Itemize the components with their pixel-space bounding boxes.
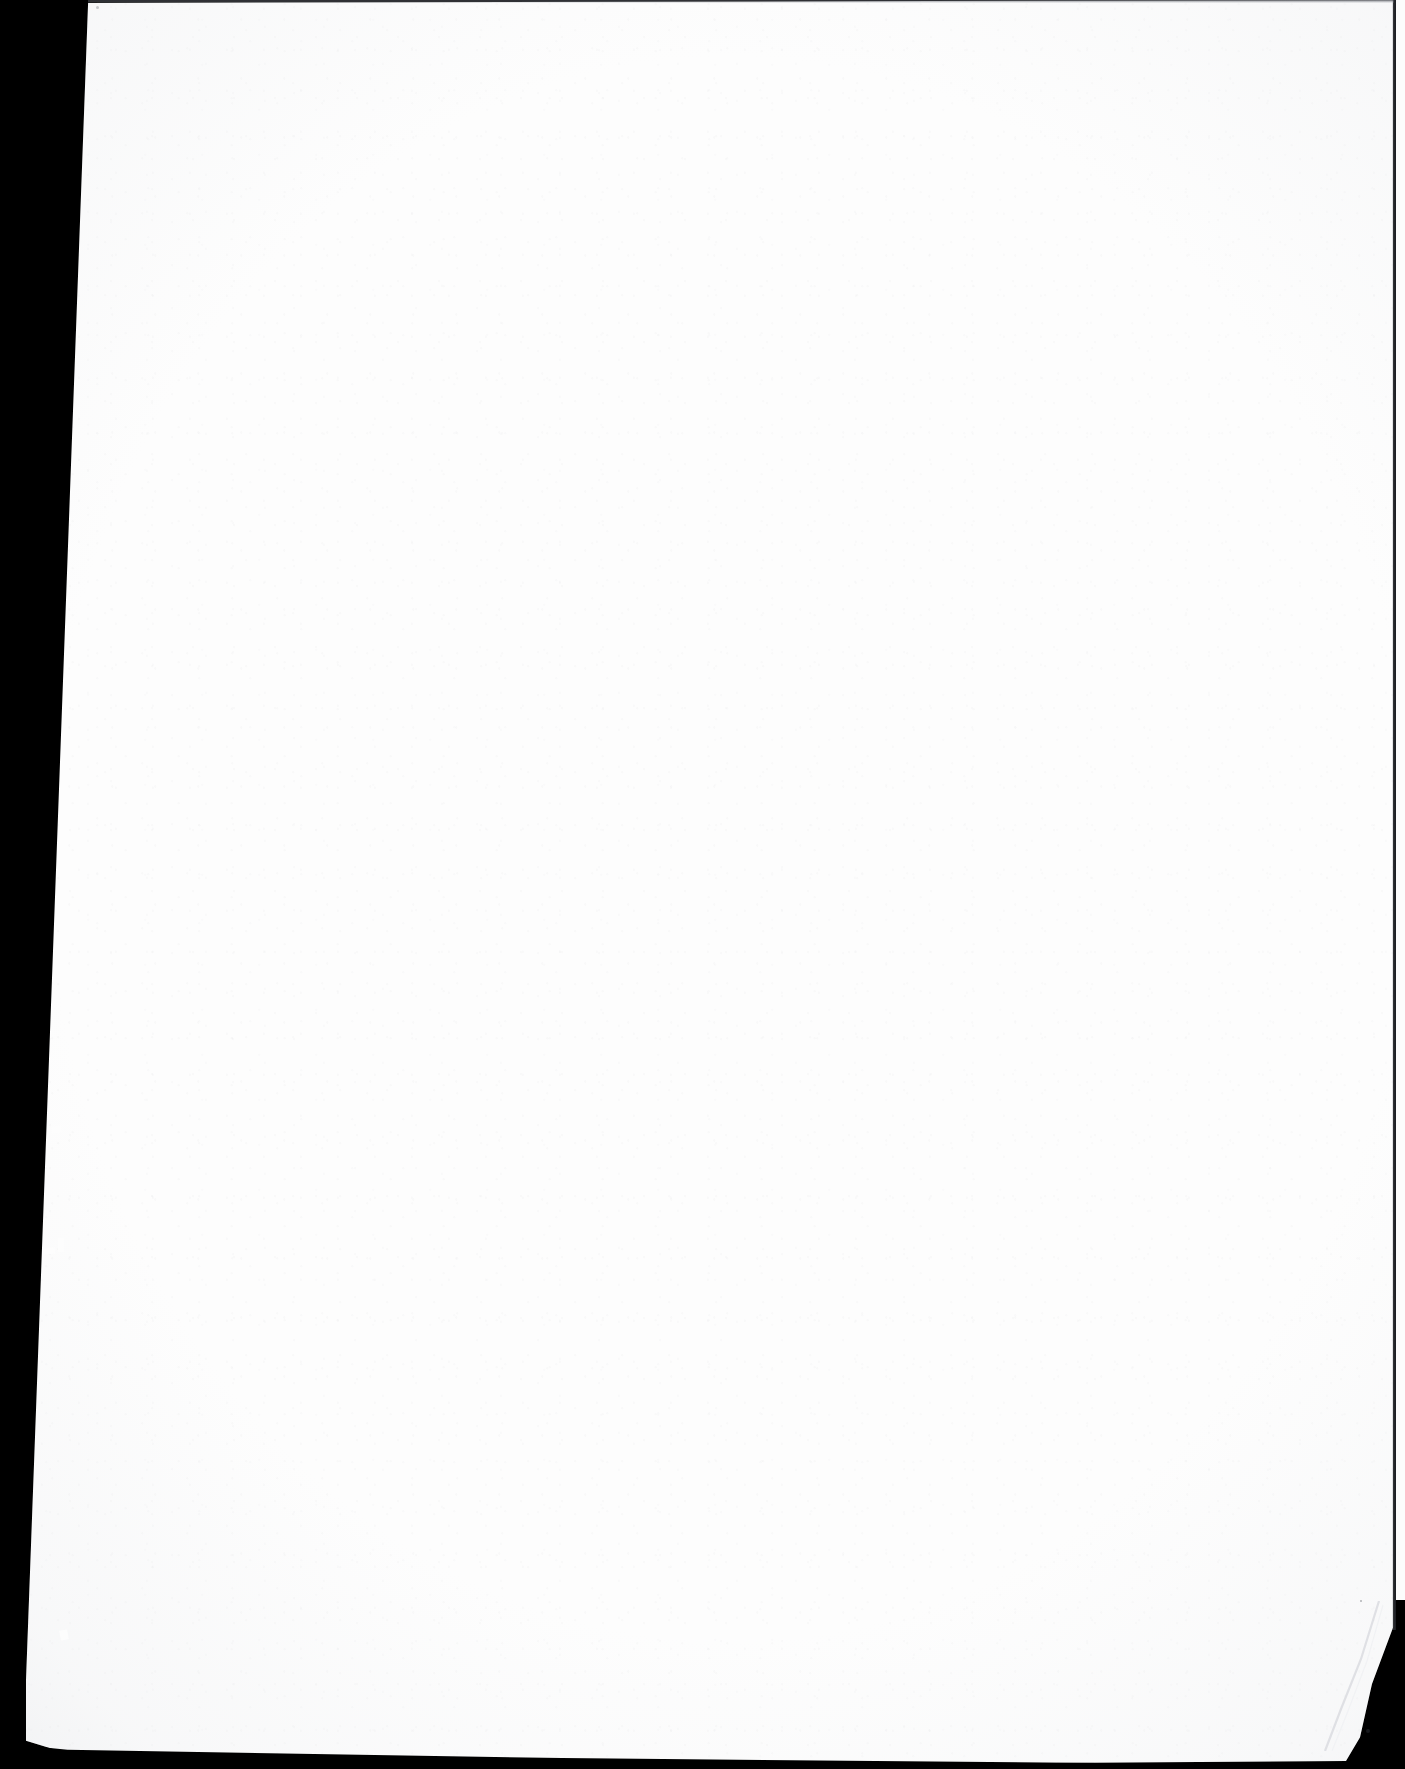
paper-vignette xyxy=(0,0,1405,1769)
paper-grain-texture xyxy=(0,0,1405,1769)
blank-page xyxy=(0,0,1405,1769)
scanned-page-viewport xyxy=(0,0,1405,1769)
